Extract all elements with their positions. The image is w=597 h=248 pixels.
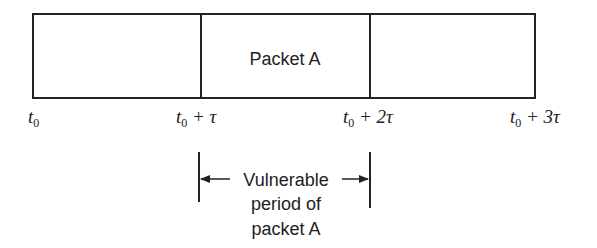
vulnerable-label-line2: period of [251,194,322,214]
time-label-t0: t0 [28,106,39,130]
vulnerable-label-line3: packet A [251,219,320,239]
time-label-t0-plus-3tau: t0 + 3τ [510,106,561,130]
packet-a-label: Packet A [249,49,320,69]
vulnerable-label-line1: Vulnerable [243,170,328,190]
vulnerable-period-diagram: Packet A t0 t0 + τ t0 + 2τ t0 + 3τ Vulne… [0,0,597,248]
time-label-t0-plus-2tau: t0 + 2τ [343,106,394,130]
time-label-t0-plus-tau: t0 + τ [176,106,218,130]
